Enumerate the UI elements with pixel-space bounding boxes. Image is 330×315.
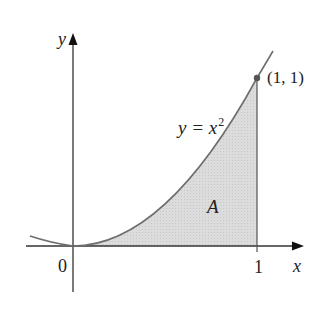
diagram-graphics [0,0,330,315]
curve-equation-label: y = x2 [178,116,224,137]
x-tick-1-label: 1 [254,258,263,276]
y-axis-arrow-icon [69,33,78,45]
x-axis-arrow-icon [292,242,304,251]
origin-label: 0 [58,257,67,275]
equation-exponent: 2 [218,115,224,129]
area-under-parabola-diagram: y x 0 1 (1, 1) y = x2 A [0,0,330,315]
region-label: A [207,197,219,216]
y-axis-label: y [58,30,66,48]
shaded-region-a [73,78,257,246]
x-axis-label: x [293,257,301,275]
equation-base: y = x [178,117,217,138]
point-1-1-marker [254,75,260,81]
point-label: (1, 1) [267,69,304,86]
